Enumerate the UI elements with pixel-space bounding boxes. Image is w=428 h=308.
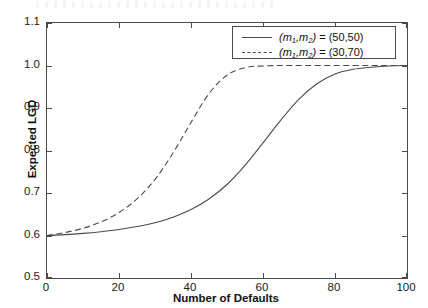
- x-tick-20: [119, 23, 120, 28]
- y-tick-0.7: [402, 193, 407, 194]
- x-tick-100: [406, 23, 407, 28]
- y-tick-0.8: [402, 151, 407, 152]
- series-layer: [47, 23, 407, 278]
- y-tick-0.8: [47, 151, 52, 152]
- y-tick-0.9: [402, 108, 407, 109]
- x-tick-100: [406, 273, 407, 278]
- y-axis-title: Expected LGD: [26, 59, 38, 219]
- series-line-50-50: [47, 66, 407, 236]
- y-tick-label-1.1: 1.1: [6, 15, 40, 27]
- y-tick-label-0.6: 0.6: [6, 228, 40, 240]
- legend-solid-line-icon: [242, 32, 272, 42]
- y-tick-0.7: [47, 193, 52, 194]
- legend-item-30-70: (m1,m2) = (30,70): [233, 45, 395, 59]
- legend-label-30-70: (m1,m2) = (30,70): [279, 46, 363, 58]
- series-line-30-70: [47, 65, 407, 235]
- y-tick-1.0: [402, 66, 407, 67]
- x-tick-20: [119, 273, 120, 278]
- legend: (m1,m2) = (50,50) (m1,m2) = (30,70): [232, 26, 396, 59]
- scan-artifact: [36, 1, 276, 8]
- plot-area: [46, 22, 408, 279]
- legend-item-50-50: (m1,m2) = (50,50): [233, 30, 395, 44]
- y-tick-0.6: [402, 236, 407, 237]
- y-tick-1.0: [47, 66, 52, 67]
- x-tick-40: [191, 23, 192, 28]
- y-tick-0.9: [47, 108, 52, 109]
- legend-label-50-50: (m1,m2) = (50,50): [279, 31, 363, 43]
- x-tick-0: [47, 273, 48, 278]
- x-tick-60: [263, 273, 264, 278]
- figure-canvas: 0.50.60.70.80.91.01.1 020406080100 Expec…: [0, 0, 428, 308]
- x-tick-40: [191, 273, 192, 278]
- x-tick-80: [335, 273, 336, 278]
- y-tick-0.6: [47, 236, 52, 237]
- legend-dashed-line-icon: [242, 47, 272, 57]
- x-axis-title: Number of Defaults: [46, 292, 406, 304]
- x-tick-0: [47, 23, 48, 28]
